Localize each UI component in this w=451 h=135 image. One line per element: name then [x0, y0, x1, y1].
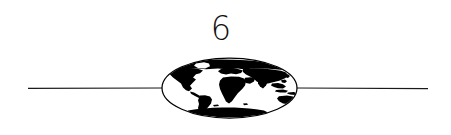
rule-with-globe-ornament	[0, 0, 451, 135]
page-canvas: 6	[0, 0, 451, 135]
rule-right-segment	[297, 88, 429, 89]
landmass-new-zealand	[296, 102, 301, 106]
